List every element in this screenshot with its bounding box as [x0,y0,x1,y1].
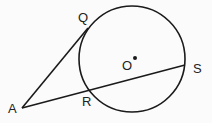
label-r: R [82,94,91,109]
label-o: O [122,58,132,73]
center-point-o [133,56,137,60]
label-q: Q [78,10,88,25]
geometry-diagram: Q O S A R [0,0,212,123]
tangent-segment-aq [22,28,88,108]
secant-segment-as [22,65,185,108]
label-s: S [193,61,202,76]
diagram-svg: Q O S A R [0,0,212,123]
label-a: A [8,101,17,116]
